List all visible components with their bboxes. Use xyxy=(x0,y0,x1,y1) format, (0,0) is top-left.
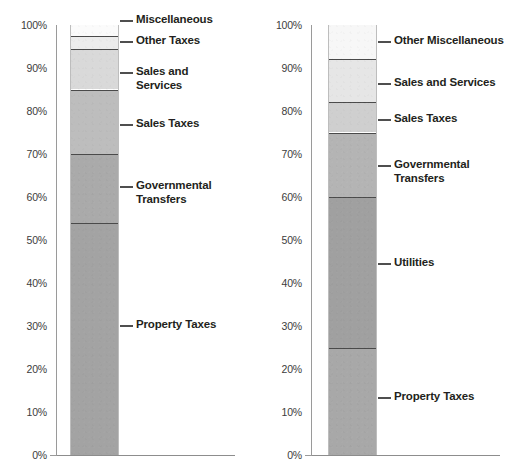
left-callout-dash-miscellaneous xyxy=(120,20,133,22)
left-tick-label-30: 30% xyxy=(3,321,47,331)
right-callout-label-utilities: Utilities xyxy=(394,256,434,270)
right-tick-label-30: 30% xyxy=(258,321,302,331)
right-tick-label-70: 70% xyxy=(258,149,302,159)
left-tick-label-70: 70% xyxy=(3,149,47,159)
right-tick-label-100: 100% xyxy=(258,20,302,30)
left-chart-panel: 100% 90% 80% 70% 60% 50% 40% 30% 20% 10%… xyxy=(0,0,255,472)
left-segment-governmental-transfers xyxy=(71,154,118,223)
right-callout-dash-property-taxes xyxy=(378,397,391,399)
left-tick-mark-0 xyxy=(50,455,57,456)
left-tick-label-80: 80% xyxy=(3,106,47,116)
right-segment-sales-and-services xyxy=(329,59,376,102)
left-callout-label-other-taxes: Other Taxes xyxy=(136,34,200,48)
right-y-axis-line xyxy=(311,25,312,455)
left-callout-label-miscellaneous: Miscellaneous xyxy=(136,13,213,27)
left-callout-label-sales-and-services: Sales and Services xyxy=(136,65,188,92)
right-segment-utilities xyxy=(329,197,376,348)
left-segment-sales-and-services xyxy=(71,49,118,90)
right-callout-dash-other-miscellaneous xyxy=(378,41,391,43)
right-callout-label-sales-taxes: Sales Taxes xyxy=(394,112,457,126)
right-callout-dash-sales-taxes xyxy=(378,119,391,121)
left-y-axis-line xyxy=(56,25,57,455)
left-segment-miscellaneous xyxy=(71,25,118,36)
right-callout-label-property-taxes: Property Taxes xyxy=(394,390,474,404)
left-tick-label-50: 50% xyxy=(3,235,47,245)
left-segment-other-taxes xyxy=(71,36,118,49)
right-chart-panel: 100% 90% 80% 70% 60% 50% 40% 30% 20% 10%… xyxy=(255,0,509,472)
right-tick-mark-0 xyxy=(305,455,312,456)
right-segment-property-taxes xyxy=(329,348,376,456)
right-tick-label-50: 50% xyxy=(258,235,302,245)
right-tick-label-20: 20% xyxy=(258,364,302,374)
left-segment-property-taxes xyxy=(71,223,118,455)
left-callout-dash-sales-taxes xyxy=(120,124,133,126)
left-x-axis-baseline xyxy=(50,455,235,456)
left-segment-sales-taxes xyxy=(71,90,118,155)
right-callout-label-sales-and-services: Sales and Services xyxy=(394,76,496,90)
left-callout-label-sales-taxes: Sales Taxes xyxy=(136,117,199,131)
right-callout-label-other-miscellaneous: Other Miscellaneous xyxy=(394,34,504,48)
right-tick-label-0: 0% xyxy=(258,450,302,460)
left-tick-label-0: 0% xyxy=(3,450,47,460)
left-callout-dash-other-taxes xyxy=(120,41,133,43)
right-tick-label-40: 40% xyxy=(258,278,302,288)
right-callout-dash-utilities xyxy=(378,263,391,265)
right-bar xyxy=(328,25,377,455)
left-bar xyxy=(70,25,119,455)
right-callout-dash-sales-and-services xyxy=(378,83,391,85)
right-segment-sales-taxes xyxy=(329,102,376,132)
left-callout-dash-property-taxes xyxy=(120,325,133,327)
right-segment-governmental-transfers xyxy=(329,133,376,198)
right-tick-label-60: 60% xyxy=(258,192,302,202)
left-callout-label-governmental-transfers: Governmental Transfers xyxy=(136,179,212,206)
right-tick-label-80: 80% xyxy=(258,106,302,116)
right-callout-label-governmental-transfers: Governmental Transfers xyxy=(394,158,470,185)
left-tick-label-100: 100% xyxy=(3,20,47,30)
left-tick-label-40: 40% xyxy=(3,278,47,288)
right-tick-label-10: 10% xyxy=(258,407,302,417)
left-callout-dash-sales-and-services xyxy=(120,72,133,74)
right-tick-label-90: 90% xyxy=(258,63,302,73)
left-tick-label-90: 90% xyxy=(3,63,47,73)
left-tick-label-20: 20% xyxy=(3,364,47,374)
right-callout-dash-governmental-transfers xyxy=(378,165,391,167)
right-segment-other-miscellaneous xyxy=(329,25,376,59)
left-callout-dash-governmental-transfers xyxy=(120,186,133,188)
right-x-axis-baseline xyxy=(305,455,500,456)
left-tick-label-60: 60% xyxy=(3,192,47,202)
left-tick-label-10: 10% xyxy=(3,407,47,417)
two-panel-stacked-bar-figure: 100% 90% 80% 70% 60% 50% 40% 30% 20% 10%… xyxy=(0,0,509,472)
left-callout-label-property-taxes: Property Taxes xyxy=(136,318,216,332)
